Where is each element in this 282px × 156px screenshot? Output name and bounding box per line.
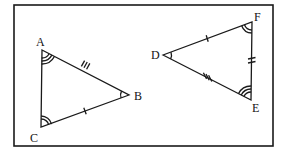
angle-b-mark <box>121 91 122 98</box>
vertex-label-c: C <box>30 131 38 145</box>
diagram-frame <box>14 5 273 146</box>
triangle-abc <box>41 50 129 127</box>
side-ab-ticks <box>81 61 89 70</box>
vertex-label-f: F <box>254 10 261 24</box>
side-de-ticks <box>203 73 211 82</box>
triangle-abc-outline <box>41 50 129 127</box>
vertex-label-d: D <box>151 48 160 62</box>
angle-d-mark <box>171 52 172 59</box>
vertex-label-a: A <box>36 35 45 49</box>
vertex-label-e: E <box>252 101 259 115</box>
triangle-def <box>163 22 256 100</box>
vertex-label-b: B <box>134 89 142 103</box>
congruent-triangles-diagram: A B C D E F <box>0 0 282 156</box>
triangle-def-outline <box>163 22 252 100</box>
